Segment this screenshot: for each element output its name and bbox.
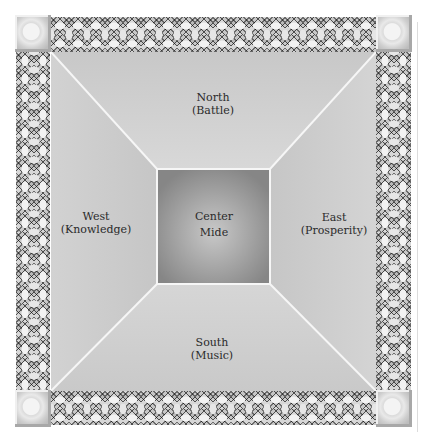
knotwork-border-left — [16, 52, 50, 391]
corner-block-bottom-right — [376, 390, 412, 427]
knotwork-border-right — [376, 52, 411, 391]
north-name: North — [192, 91, 234, 104]
label-north: North (Battle) — [192, 91, 234, 117]
corner-block-top-right — [376, 15, 412, 52]
label-west: West (Knowledge) — [61, 210, 132, 236]
east-name: East — [301, 211, 367, 224]
knotwork-border-bottom — [51, 391, 376, 425]
south-attribute: (Music) — [191, 349, 233, 362]
corner-block-top-left — [15, 15, 51, 52]
center-attribute: Mide — [195, 226, 233, 239]
knotwork-border-top — [51, 17, 376, 52]
diagram-frame: North (Battle) West (Knowledge) Center M… — [0, 0, 423, 443]
page-edge-line — [417, 22, 418, 432]
west-attribute: (Knowledge) — [61, 223, 132, 236]
corner-block-bottom-left — [15, 390, 51, 427]
label-south: South (Music) — [191, 336, 233, 362]
south-name: South — [191, 336, 233, 349]
label-east: East (Prosperity) — [301, 211, 367, 237]
center-name: Center — [195, 210, 233, 223]
label-center: Center Mide — [195, 210, 233, 239]
west-name: West — [61, 210, 132, 223]
north-attribute: (Battle) — [192, 104, 234, 117]
east-attribute: (Prosperity) — [301, 224, 367, 237]
